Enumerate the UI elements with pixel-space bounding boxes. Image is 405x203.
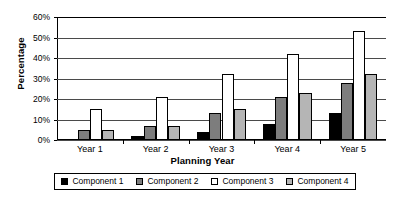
bar-component-4-year-1 xyxy=(102,130,114,140)
legend-item-component-1: Component 1 xyxy=(61,177,123,186)
bar-component-2-year-4 xyxy=(275,97,287,140)
bar-component-3-year-4 xyxy=(287,54,299,140)
bar-component-2-year-3 xyxy=(209,113,221,140)
bar-component-1-year-5 xyxy=(329,113,341,140)
legend-label: Component 4 xyxy=(297,177,348,186)
bar-chart: Percentage 0%10%20%30%40%50%60% Year 1Ye… xyxy=(0,0,405,203)
bar-component-4-year-4 xyxy=(299,93,311,140)
y-tick-label: 40% xyxy=(4,54,50,63)
x-tick-mark xyxy=(123,140,124,144)
y-tick-label: 50% xyxy=(4,34,50,43)
bar-component-1-year-3 xyxy=(197,132,209,140)
y-tick-label: 20% xyxy=(4,95,50,104)
y-tick-label: 10% xyxy=(4,116,50,125)
bar-component-1-year-4 xyxy=(263,124,275,140)
bars-layer xyxy=(57,17,386,140)
legend-label: Component 1 xyxy=(72,177,123,186)
y-tick-label: 60% xyxy=(4,13,50,22)
x-tick-mark xyxy=(254,140,255,144)
y-tick-label: 30% xyxy=(4,75,50,84)
chart-legend: Component 1Component 2Component 3Compone… xyxy=(54,173,356,190)
legend-item-component-2: Component 2 xyxy=(136,177,198,186)
bar-component-4-year-3 xyxy=(234,109,246,140)
legend-item-component-3: Component 3 xyxy=(211,177,273,186)
bar-component-3-year-2 xyxy=(156,97,168,140)
x-axis-title: Planning Year xyxy=(0,155,405,166)
x-tick-mark xyxy=(320,140,321,144)
legend-swatch-icon xyxy=(286,178,293,185)
bar-component-4-year-2 xyxy=(168,126,180,140)
legend-label: Component 2 xyxy=(147,177,198,186)
x-tick-label: Year 5 xyxy=(313,144,393,154)
legend-swatch-icon xyxy=(61,178,68,185)
bar-component-3-year-3 xyxy=(222,74,234,140)
bar-component-3-year-1 xyxy=(90,109,102,140)
bar-component-3-year-5 xyxy=(353,31,365,140)
gridline xyxy=(57,140,386,141)
bar-component-2-year-2 xyxy=(144,126,156,140)
y-tick-label: 0% xyxy=(4,136,50,145)
y-tick-mark xyxy=(54,140,57,141)
legend-swatch-icon xyxy=(211,178,218,185)
bar-component-4-year-5 xyxy=(365,74,377,140)
x-tick-mark xyxy=(189,140,190,144)
legend-swatch-icon xyxy=(136,178,143,185)
legend-label: Component 3 xyxy=(222,177,273,186)
bar-component-2-year-5 xyxy=(341,83,353,140)
bar-component-2-year-1 xyxy=(78,130,90,140)
bar-component-1-year-2 xyxy=(131,136,143,140)
legend-item-component-4: Component 4 xyxy=(286,177,348,186)
